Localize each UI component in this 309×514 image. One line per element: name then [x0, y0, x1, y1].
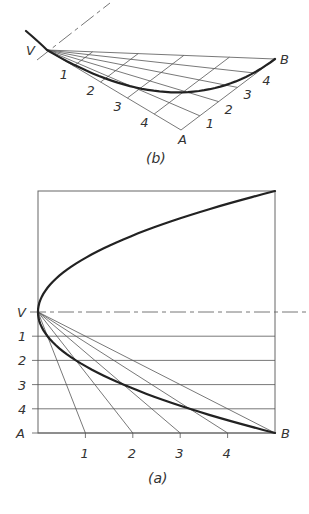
label-va-1: 1: [60, 67, 68, 82]
ray-v-to-base-2: [38, 312, 133, 433]
ray-v-to-ab-1: [47, 50, 200, 116]
figure-b-caption: (b): [146, 150, 166, 166]
label-ab-4: 4: [262, 73, 270, 88]
label-base-3: 3: [175, 446, 183, 461]
ray-v-to-base-3: [38, 312, 180, 433]
label-va-2: 2: [87, 83, 95, 98]
figure-b-oblique-parabola: VAB12341234: [26, 3, 289, 147]
ray-v-to-ab-4: [47, 50, 256, 73]
label-base-4: 4: [223, 446, 231, 461]
figure-a-caption: (a): [148, 470, 168, 486]
label-ab-2: 2: [225, 102, 233, 117]
label-a: A: [15, 426, 25, 441]
label-v: V: [17, 305, 27, 320]
label-ab-3: 3: [243, 87, 251, 102]
parabola-construction-diagram: VAB12341234 VAB12341234 (b) (a): [0, 0, 309, 514]
line-vb: [47, 50, 275, 59]
label-b: B: [281, 426, 290, 441]
ray-v-to-ab-3: [47, 50, 237, 87]
label-side-3: 3: [18, 378, 26, 393]
label-v: V: [26, 43, 36, 58]
ray-v-to-base-1: [38, 312, 85, 433]
label-base-1: 1: [80, 446, 88, 461]
line-vb: [38, 312, 275, 433]
label-ab-1: 1: [206, 116, 214, 131]
label-b: B: [280, 52, 289, 67]
label-a: A: [177, 132, 187, 147]
label-va-3: 3: [113, 99, 121, 114]
label-base-2: 2: [128, 446, 136, 461]
label-va-4: 4: [140, 115, 148, 130]
figure-a-rectangle-parabola: VAB12341234: [15, 191, 306, 461]
label-side-1: 1: [18, 329, 26, 344]
label-side-4: 4: [18, 402, 26, 417]
ray-v-to-base-4: [38, 312, 228, 433]
label-side-2: 2: [18, 353, 26, 368]
